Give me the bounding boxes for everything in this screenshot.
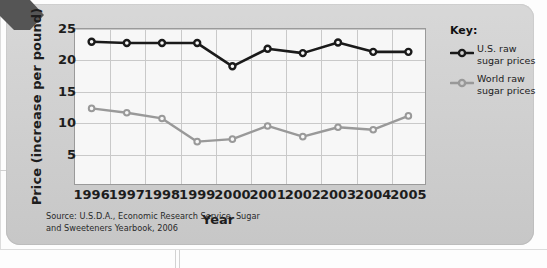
data-point-marker: [194, 139, 200, 145]
legend: Key: U.S. raw sugar pricesWorld raw suga…: [450, 24, 536, 103]
data-point-marker: [194, 40, 200, 46]
chart-area: 5101520251996199719981999200020012002200…: [50, 18, 432, 194]
data-point-marker: [335, 124, 341, 130]
y-axis-tick-label: 20: [50, 53, 76, 66]
data-point-marker: [89, 106, 95, 112]
legend-item: U.S. raw sugar prices: [450, 43, 536, 66]
page-rule-bottom: [0, 249, 547, 250]
legend-item-label: U.S. raw sugar prices: [474, 43, 536, 66]
page-rule-tick-a: [175, 250, 176, 268]
series-line: [92, 42, 409, 66]
data-point-marker: [335, 39, 341, 45]
data-point-marker: [159, 116, 165, 122]
y-axis-tick-label: 25: [50, 22, 76, 35]
data-point-marker: [370, 127, 376, 133]
data-point-marker: [406, 113, 412, 119]
data-point-marker: [124, 40, 130, 46]
data-point-marker: [265, 46, 271, 52]
data-point-marker: [229, 63, 235, 69]
legend-swatch-icon: [450, 74, 474, 86]
data-point-marker: [124, 110, 130, 116]
data-point-marker: [89, 39, 95, 45]
page-background: Price (increase per pound) 5101520251996…: [0, 0, 547, 268]
legend-items: U.S. raw sugar pricesWorld raw sugar pri…: [450, 43, 536, 96]
figure-panel: Price (increase per pound) 5101520251996…: [6, 4, 534, 245]
page-rule-tick-b: [179, 250, 180, 268]
data-point-marker: [159, 40, 165, 46]
legend-item-label: World raw sugar prices: [474, 73, 536, 96]
legend-swatch-icon: [450, 44, 474, 56]
y-axis-tick-label: 15: [50, 84, 76, 97]
y-axis-title: Price (increase per pound): [26, 18, 48, 194]
data-point-marker: [300, 50, 306, 56]
source-note: Source: U.S.D.A., Economic Research Serv…: [46, 211, 261, 235]
y-axis-title-text: Price (increase per pound): [30, 7, 45, 205]
x-axis-tick-label: 2005: [385, 188, 431, 201]
data-point-marker: [230, 136, 236, 142]
legend-item: World raw sugar prices: [450, 73, 536, 96]
data-point-marker: [405, 49, 411, 55]
y-axis-tick-label: 10: [50, 116, 76, 129]
data-point-marker: [265, 123, 271, 129]
data-point-marker: [300, 134, 306, 140]
series-canvas: [74, 28, 426, 185]
y-axis-tick-label: 5: [50, 147, 76, 160]
page-rule-left: [0, 0, 1, 250]
series-line: [92, 108, 409, 141]
data-point-marker: [370, 49, 376, 55]
legend-title: Key:: [450, 24, 536, 37]
